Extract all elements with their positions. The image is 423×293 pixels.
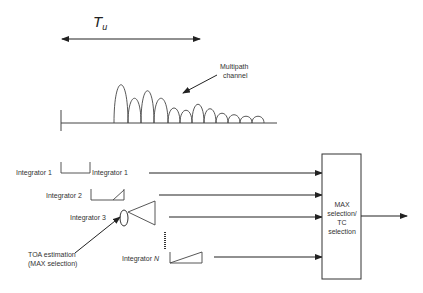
multipath-channel-label: Multipath channel xyxy=(220,62,248,80)
multipath-label-line2: channel xyxy=(220,71,248,80)
toa-estimation-label: TOA estimation (MAX selection) xyxy=(28,250,77,268)
integrator-1-left-label: Integrator 1 xyxy=(16,168,52,177)
selection-block-label: MAX selection/ TC selection xyxy=(322,200,362,236)
toa-estimation-ellipse xyxy=(120,210,128,226)
integrator-3-glyph xyxy=(128,201,155,225)
integrator-1-right-label: Integrator 1 xyxy=(92,168,128,177)
integrator-2-label: Integrator 2 xyxy=(46,191,82,200)
toa-pointer-arrow xyxy=(75,217,120,253)
multipath-waveform xyxy=(114,85,264,123)
integrator-3-label: Integrator 3 xyxy=(70,213,106,222)
multipath-pointer-arrow xyxy=(183,75,217,93)
integrator-n-glyph xyxy=(170,252,202,263)
toa-label-line2: (MAX selection) xyxy=(28,259,77,268)
multipath-label-line1: Multipath xyxy=(220,62,248,71)
selection-line1: MAX xyxy=(322,200,362,209)
selection-line4: selection xyxy=(322,227,362,236)
tu-label: Tu xyxy=(93,13,107,32)
integrator-2-glyph xyxy=(91,189,124,200)
selection-line2: selection/ xyxy=(322,209,362,218)
integrator-1-glyph xyxy=(61,162,90,173)
selection-line3: TC xyxy=(322,218,362,227)
signal-arrows xyxy=(149,173,322,257)
toa-label-line1: TOA estimation xyxy=(28,250,77,259)
integrator-n-label: Integrator N xyxy=(122,254,159,263)
